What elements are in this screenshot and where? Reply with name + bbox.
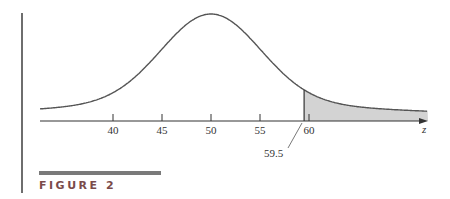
annotation-leader-line bbox=[288, 123, 302, 148]
x-axis-ticks: 4045505560 bbox=[108, 114, 316, 136]
x-tick-label: 55 bbox=[255, 124, 267, 136]
x-tick-label: 60 bbox=[304, 124, 316, 136]
normal-curve bbox=[40, 14, 427, 111]
figure-label: FIGURE 2 bbox=[39, 179, 116, 192]
x-tick-label: 50 bbox=[206, 124, 218, 136]
x-tick-label: 40 bbox=[108, 124, 120, 136]
figure-rule bbox=[39, 171, 161, 175]
annotation-label: 59.5 bbox=[264, 147, 284, 159]
shaded-tail-region bbox=[304, 90, 428, 121]
axis-label-z: z bbox=[421, 123, 427, 135]
normal-curve-chart: 4045505560 59.5 z bbox=[0, 0, 450, 199]
x-tick-label: 45 bbox=[157, 124, 169, 136]
